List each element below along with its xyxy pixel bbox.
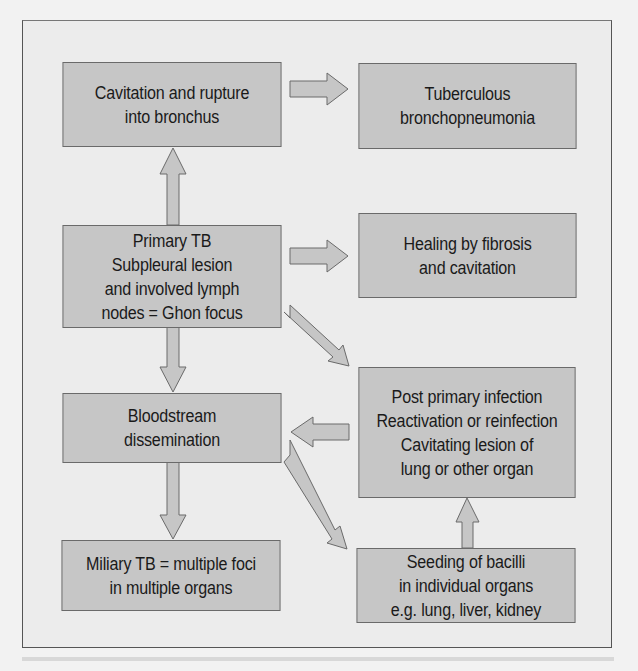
bottom-rule (22, 657, 614, 661)
node-primary-tb: Primary TB Subpleural lesion and involve… (63, 225, 282, 328)
node-miliary: Miliary TB = multiple foci in multiple o… (62, 540, 281, 611)
node-label: Healing by fibrosis and cavitation (403, 232, 531, 280)
node-bronchopneumonia: Tuberculous bronchopneumonia (358, 63, 576, 149)
node-cavitation: Cavitation and rupture into bronchus (63, 62, 282, 147)
node-post-primary: Post primary infection Reactivation or r… (358, 367, 575, 498)
node-seeding: Seeding of bacilli in individual organs … (357, 548, 576, 623)
node-bloodstream: Bloodstream dissemination (63, 393, 282, 463)
node-label: Miliary TB = multiple foci in multiple o… (86, 552, 256, 600)
node-label: Primary TB Subpleural lesion and involve… (101, 229, 242, 325)
node-healing: Healing by fibrosis and cavitation (358, 213, 576, 298)
node-label: Cavitation and rupture into bronchus (95, 81, 249, 129)
node-label: Tuberculous bronchopneumonia (400, 82, 535, 130)
node-label: Post primary infection Reactivation or r… (376, 385, 557, 481)
node-label: Bloodstream dissemination (124, 404, 220, 452)
node-label: Seeding of bacilli in individual organs … (391, 550, 541, 622)
